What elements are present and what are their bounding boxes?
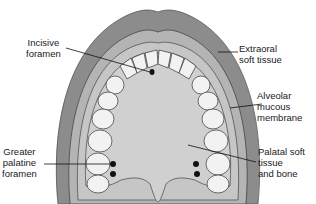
label-alveolar-mucous-membrane: Alveolar mucous membrane — [257, 90, 302, 123]
greater-palatine-foramen-left-1 — [110, 161, 116, 167]
label-extraoral-soft-tissue: Extraoral soft tissue — [239, 43, 282, 65]
greater-palatine-foramen-right-1 — [193, 161, 199, 167]
maxillary-arch-diagram: Incisive foramen Extraoral soft tissue A… — [0, 0, 316, 204]
incisive-foramen-marker — [150, 69, 155, 75]
greater-palatine-foramen-left-2 — [110, 171, 116, 177]
label-greater-palatine-foramen: Greater palatine foramen — [2, 146, 37, 179]
label-palatal-soft-tissue: Palatal soft tissue and bone — [258, 146, 305, 179]
label-incisive-foramen: Incisive foramen — [26, 37, 61, 59]
greater-palatine-foramen-right-2 — [194, 171, 200, 177]
